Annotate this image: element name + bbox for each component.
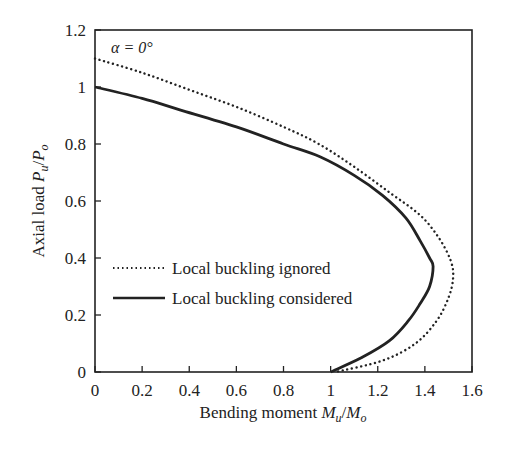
x-tick-label: 0.8 [273,381,294,400]
alpha-annotation: α = 0° [111,39,153,56]
ticks-layer: 00.20.40.60.811.21.41.600.20.40.60.811.2 [65,21,483,400]
y-tick-label: 0.4 [65,249,87,268]
y-tick-label: 0.2 [65,306,86,325]
x-tick-label: 1.2 [367,381,388,400]
x-tick-label: 0.4 [179,381,201,400]
series-line-buckling-ignored [95,59,453,373]
x-axis-title: Bending moment Mu/Mo [200,403,367,425]
y-tick-label: 0.8 [65,135,86,154]
y-tick-label: 1.2 [65,21,86,40]
plot-frame [95,30,472,372]
x-tick-label: 0.6 [226,381,247,400]
legend: Local buckling ignored Local buckling co… [113,259,353,308]
y-tick-label: 0 [78,363,87,382]
chart: 00.20.40.60.811.21.41.600.20.40.60.811.2… [0,0,506,451]
x-tick-label: 0.2 [132,381,153,400]
legend-label-considered: Local buckling considered [172,289,353,308]
x-tick-label: 1 [326,381,335,400]
x-tick-label: 1.4 [414,381,436,400]
x-tick-label: 1.6 [461,381,482,400]
series-layer [95,59,453,373]
x-tick-label: 0 [91,381,100,400]
series-line-buckling-considered [95,87,433,372]
y-tick-label: 0.6 [65,192,86,211]
y-axis-title: Axial load Pu/Po [29,144,51,257]
y-tick-label: 1 [78,78,87,97]
legend-label-ignored: Local buckling ignored [172,259,331,278]
